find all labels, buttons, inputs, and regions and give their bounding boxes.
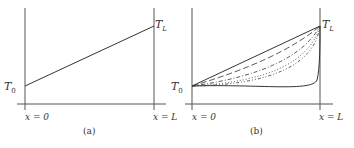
panel-b: T0 TL x = 0 x = L (b): [171, 8, 343, 136]
xl-label: x = L: [319, 112, 343, 122]
panel-a: T0 TL x = 0 x = L (a): [4, 8, 177, 136]
t0-label: T0: [171, 80, 183, 95]
figure: T0 TL x = 0 x = L (a) T0 TL x = 0 x = L …: [0, 0, 354, 148]
t0-label: T0: [4, 80, 16, 95]
profile-linear: [192, 26, 320, 86]
caption-a: (a): [83, 126, 95, 136]
x0-label: x = 0: [192, 112, 216, 122]
tl-label: TL: [155, 18, 167, 33]
caption-b: (b): [250, 126, 263, 136]
tl-label: TL: [322, 18, 334, 33]
xl-label: x = L: [153, 112, 177, 122]
x0-label: x = 0: [25, 112, 49, 122]
linear-profile: [25, 26, 154, 86]
